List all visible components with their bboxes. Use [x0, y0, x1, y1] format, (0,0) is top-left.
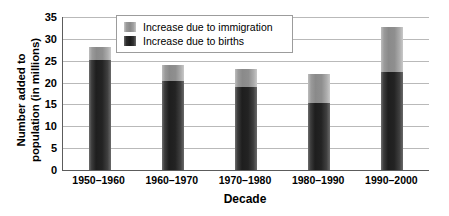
bar-segment-births	[162, 81, 184, 170]
y-tick-label: 10	[36, 120, 57, 132]
bar-segment-immigration	[89, 47, 111, 60]
bar-group	[235, 69, 257, 170]
y-tick-label: 5	[36, 142, 57, 154]
legend-label-births: Increase due to births	[143, 35, 244, 47]
legend-item-births: Increase due to births	[124, 34, 286, 48]
x-axis-tick-labels: 1950–19601960–19701970–19801980–19901990…	[62, 174, 428, 188]
population-growth-stacked-bar-chart: Number added to population (in millions)…	[0, 0, 449, 216]
bar-segment-immigration	[235, 69, 257, 86]
bar-group	[308, 74, 330, 170]
y-axis-title-line-1: Number added to	[15, 53, 29, 146]
y-tick-label: 0	[36, 164, 57, 176]
bar-segment-births	[381, 72, 403, 170]
legend-swatch-immigration-icon	[124, 22, 136, 32]
x-axis-title: Decade	[62, 192, 428, 206]
bar-segment-immigration	[308, 74, 330, 103]
bar-segment-births	[89, 60, 111, 170]
y-axis-tick-labels: 05101520253035	[36, 11, 57, 176]
chart-legend: Increase due to immigration Increase due…	[116, 15, 293, 53]
y-tick-label: 20	[36, 77, 57, 89]
bar-group	[381, 27, 403, 170]
y-tick-label: 15	[36, 98, 57, 110]
bar-group	[89, 47, 111, 170]
bar-segment-immigration	[381, 27, 403, 72]
y-tick-label: 35	[36, 11, 57, 23]
y-tick-label: 30	[36, 33, 57, 45]
legend-label-immigration: Increase due to immigration	[143, 21, 273, 33]
bar-segment-births	[308, 103, 330, 170]
legend-swatch-births-icon	[124, 36, 136, 46]
bar-segment-immigration	[162, 65, 184, 82]
y-tick-label: 25	[36, 55, 57, 67]
legend-item-immigration: Increase due to immigration	[124, 20, 286, 34]
x-tick-label: 1990–2000	[348, 174, 434, 187]
bar-group	[162, 65, 184, 170]
bar-segment-births	[235, 87, 257, 170]
